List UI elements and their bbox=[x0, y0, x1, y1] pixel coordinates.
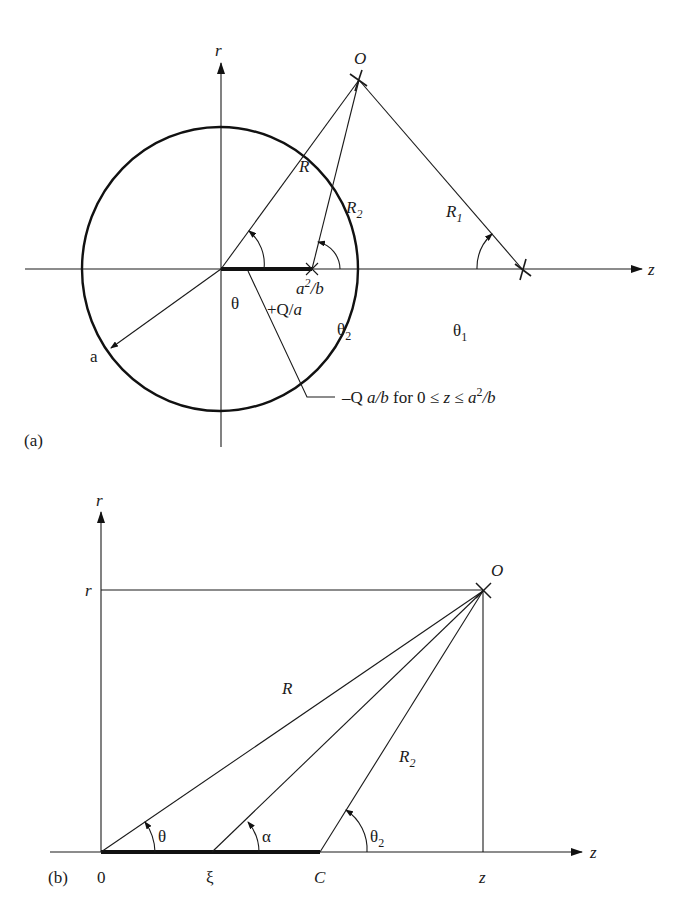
line-charge-annotation: –Q a/b for 0 ≤ z ≤ a2/b bbox=[341, 385, 496, 407]
tick-0-label: 0 bbox=[97, 868, 106, 887]
tick-xi-label: ξ bbox=[206, 868, 214, 887]
radius-arrow bbox=[111, 269, 221, 348]
line-R2-a bbox=[312, 80, 359, 269]
point-O-label-a: O bbox=[354, 49, 366, 68]
figure-b: r r O R R2 θ α θ2 (b) 0 ξ C z z bbox=[48, 491, 597, 887]
point-O-label-b: O bbox=[491, 561, 503, 580]
angle-theta1-label-a: θ1 bbox=[453, 321, 467, 344]
angle-alpha-arc-b bbox=[248, 822, 259, 852]
angle-alpha-label-b: α bbox=[262, 827, 271, 846]
line-R1-label-a: R1 bbox=[445, 202, 462, 225]
angle-theta-label-b: θ bbox=[158, 827, 166, 846]
diagram-canvas: r z O R R2 R1 θ +Q/a θ2 θ1 a2/b a –Q a/b… bbox=[0, 0, 683, 906]
panel-label-a: (a) bbox=[24, 431, 43, 450]
line-R-b bbox=[101, 591, 483, 852]
line-R-label-b: R bbox=[281, 679, 293, 698]
panel-label-b: (b) bbox=[48, 868, 68, 887]
angle-theta2-label-b: θ2 bbox=[370, 827, 384, 850]
line-R-label-a: R bbox=[298, 157, 310, 176]
charge-label: +Q/a bbox=[267, 300, 302, 319]
angle-theta2-arc-b bbox=[346, 810, 367, 852]
radius-label: a bbox=[90, 347, 98, 366]
angle-theta1-arc-a bbox=[477, 234, 492, 269]
line-xi-b bbox=[212, 591, 483, 852]
angle-theta2-arc-a bbox=[318, 242, 340, 269]
z-axis-label-a: z bbox=[647, 260, 655, 279]
figure-a: r z O R R2 R1 θ +Q/a θ2 θ1 a2/b a –Q a/b… bbox=[24, 41, 655, 450]
tick-z-label: z bbox=[478, 868, 486, 887]
line-R1-a bbox=[359, 80, 523, 270]
angle-theta-arc-a bbox=[249, 231, 264, 269]
line-R2-b bbox=[320, 591, 483, 852]
image-point-label: a2/b bbox=[296, 276, 324, 298]
angle-theta-label-a: θ bbox=[231, 294, 239, 313]
line-R-a bbox=[221, 80, 359, 269]
tick-C-label: C bbox=[314, 868, 326, 887]
line-R2-label-b: R2 bbox=[398, 747, 415, 770]
angle-theta-arc-b bbox=[145, 822, 155, 852]
r-axis-label-a: r bbox=[215, 41, 222, 60]
r-axis-label-b: r bbox=[96, 491, 103, 510]
r-level-label: r bbox=[85, 581, 92, 600]
z-axis-label-b: z bbox=[589, 843, 597, 862]
